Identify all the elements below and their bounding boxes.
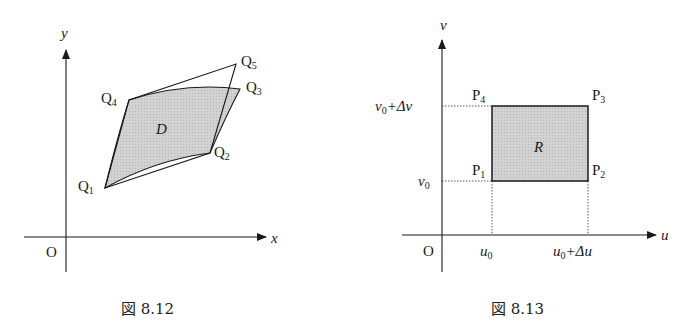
figure-8-12: y x O D Q1 Q2 Q3 Q4 Q5 図 8.12 [24,25,278,318]
figure-caption: 図 8.12 [121,300,174,318]
point-q5-label: Q5 [241,53,257,71]
region-d [105,87,240,188]
y-axis-label: y [59,25,68,41]
tick-v0: v0 [418,173,430,191]
tick-u0-plus-du: u0+Δu [553,243,592,261]
u-axis-label: u [661,227,669,243]
figure-8-13: v u O R P1 P2 P3 P4 u0 u0+Δu v0 v0+Δv 図 … [375,17,669,318]
tick-v0-plus-dv: v0+Δv [375,98,413,116]
point-p3-label: P3 [592,87,605,105]
figures-canvas: y x O D Q1 Q2 Q3 Q4 Q5 図 8.12 v u O R P1… [0,0,681,332]
point-q3-label: Q3 [246,79,262,97]
origin-label: O [423,243,434,259]
tick-u0: u0 [480,243,493,261]
v-axis-label: v [440,17,447,33]
point-q1-label: Q1 [78,178,94,196]
point-p1-label: P1 [472,162,485,180]
point-p2-label: P2 [592,162,605,180]
region-d-label: D [155,121,167,137]
figure-caption: 図 8.13 [491,300,544,318]
origin-label: O [46,244,57,260]
point-q2-label: Q2 [214,144,230,162]
region-r-label: R [533,139,543,155]
x-axis-label: x [270,230,278,246]
point-q4-label: Q4 [101,90,117,108]
point-p4-label: P4 [472,87,485,105]
